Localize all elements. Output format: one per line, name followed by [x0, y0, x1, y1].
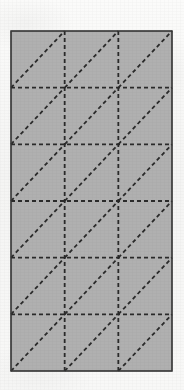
figure-canvas	[0, 0, 184, 390]
triangulated-mesh-diagram	[0, 0, 184, 390]
